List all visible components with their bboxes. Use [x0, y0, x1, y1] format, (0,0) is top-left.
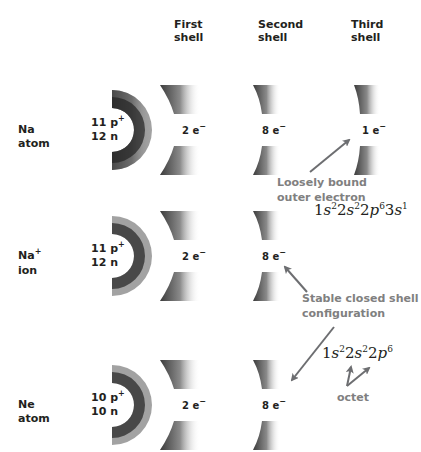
header-first-shell: First shell: [174, 18, 203, 44]
annotation-line: Loosely bound: [277, 175, 367, 190]
annotation-octet: octet: [337, 390, 369, 405]
annotation-line: Stable closed shell: [302, 291, 418, 306]
proton-count: 11 p: [91, 116, 118, 129]
electron-config-na: 1s22s22p63s1: [314, 201, 408, 219]
row-label-na-atom: Na atom: [18, 123, 50, 151]
ion-charge: +: [35, 247, 42, 256]
proton-charge: +: [118, 240, 125, 249]
row-label-ne-atom: Ne atom: [18, 398, 50, 426]
electron-count-shell-3: 1 e−: [362, 125, 386, 136]
electron-config-ne: 1s22s22p6: [322, 344, 393, 362]
electron-count-shell-1: 2 e−: [182, 251, 206, 262]
row-na-atom-graphics: [112, 85, 380, 175]
arrow-loosely-bound: [310, 140, 349, 172]
species-type: atom: [18, 137, 50, 151]
species-type: ion: [18, 264, 41, 278]
arrow-stable-na-ion: [285, 267, 307, 292]
electron-count-shell-1: 2 e−: [182, 400, 206, 411]
electron-count-shell-2: 8 e−: [262, 125, 286, 136]
proton-charge: +: [118, 114, 125, 123]
header-line: Third: [351, 18, 383, 31]
electron-count-shell-2: 8 e−: [262, 400, 286, 411]
row-label-na-ion: Na+ ion: [18, 249, 41, 278]
diagram-graphics: [0, 0, 421, 452]
element-symbol: Ne: [18, 398, 50, 412]
electron-count-shell-2: 8 e−: [262, 251, 286, 262]
header-second-shell: Second shell: [258, 18, 303, 44]
header-line: shell: [174, 31, 203, 44]
nucleus-na-atom: 11 p+ 12 n: [91, 116, 125, 143]
header-line: First: [174, 18, 203, 31]
neutron-count: 10 n: [91, 405, 125, 418]
proton-count: 10 p: [91, 391, 118, 404]
electron-count-shell-1: 2 e−: [182, 125, 206, 136]
neutron-count: 12 n: [91, 256, 125, 269]
neutron-count: 12 n: [91, 130, 125, 143]
element-symbol: Na: [18, 249, 35, 262]
annotation-stable-closed-shell: Stable closed shell configuration: [302, 291, 418, 321]
nucleus-ne-atom: 10 p+ 10 n: [91, 391, 125, 418]
species-type: atom: [18, 412, 50, 426]
annotation-line: configuration: [302, 306, 418, 321]
header-third-shell: Third shell: [351, 18, 383, 44]
header-line: Second: [258, 18, 303, 31]
header-line: shell: [258, 31, 303, 44]
nucleus-na-ion: 11 p+ 12 n: [91, 242, 125, 269]
header-line: shell: [351, 31, 383, 44]
proton-count: 11 p: [91, 242, 118, 255]
proton-charge: +: [118, 389, 125, 398]
element-symbol: Na: [18, 123, 50, 137]
